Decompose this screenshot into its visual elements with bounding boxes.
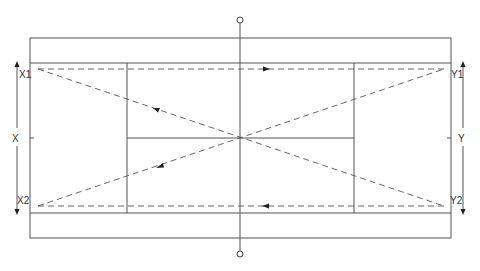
net-post-bottom: [237, 251, 243, 257]
net-post-top: [237, 17, 243, 23]
arrow-right-icon: [263, 67, 270, 72]
label-x1: X1: [19, 69, 32, 80]
label-x2: X2: [17, 195, 30, 206]
arrow-upleft-icon: [153, 108, 160, 113]
court-diagram: X1 X X2 Y1 Y Y2: [0, 0, 480, 271]
arrow-up-icon: [15, 61, 20, 67]
arrow-down-icon: [461, 209, 466, 215]
label-y2: Y2: [450, 195, 463, 206]
arrow-left-icon: [262, 204, 269, 209]
label-x: X: [12, 133, 19, 144]
label-y1: Y1: [451, 69, 464, 80]
label-y: Y: [458, 133, 465, 144]
arrow-up-icon: [461, 61, 466, 67]
arrow-down-icon: [15, 209, 20, 215]
